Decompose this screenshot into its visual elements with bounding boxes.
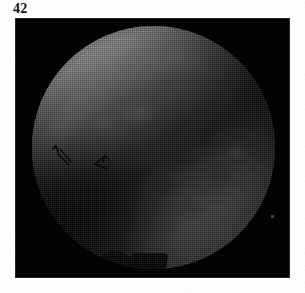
figure-page: 42 bbox=[0, 0, 305, 293]
plate-speck bbox=[271, 215, 274, 218]
figure-number-label: 42 bbox=[13, 1, 27, 16]
endoscopic-field-of-view bbox=[32, 26, 275, 269]
field-vignette bbox=[32, 26, 275, 269]
photograph-plate bbox=[15, 18, 290, 278]
